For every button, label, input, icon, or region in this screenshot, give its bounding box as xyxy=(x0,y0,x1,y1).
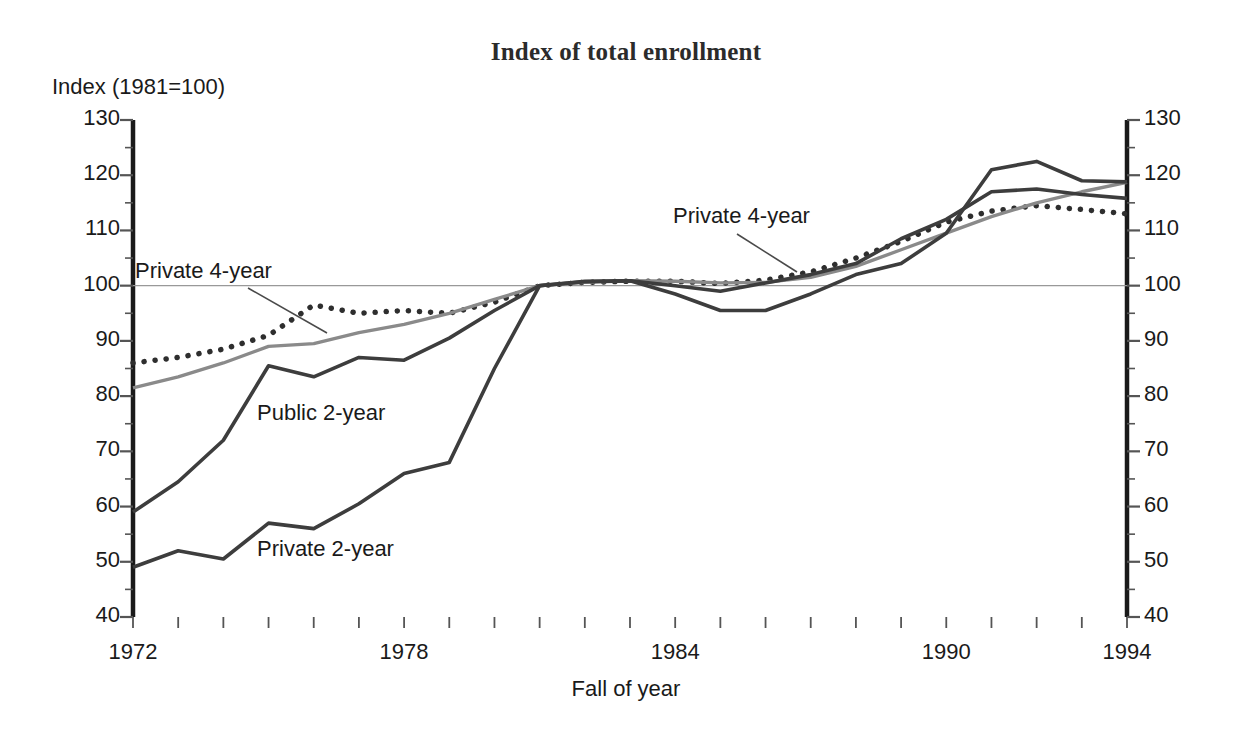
y-axis-label-left-90: 90 xyxy=(50,326,120,352)
y-axis-label-right-120: 120 xyxy=(1144,160,1214,186)
series-group xyxy=(133,161,1127,567)
y-axis-label-right-60: 60 xyxy=(1144,492,1214,518)
label-private-2year: Private 2-year xyxy=(257,536,394,562)
chart-page: Index of total enrollment Index (1981=10… xyxy=(0,0,1252,734)
y-axis-label-left-60: 60 xyxy=(50,492,120,518)
y-axis-label-left-50: 50 xyxy=(50,547,120,573)
y-axis-label-right-100: 100 xyxy=(1144,271,1214,297)
x-axis-label-1972: 1972 xyxy=(88,639,178,665)
y-axis-label-left-80: 80 xyxy=(50,381,120,407)
x-axis-caption: Fall of year xyxy=(0,676,1252,702)
y-axis-label-left-110: 110 xyxy=(50,215,120,241)
label-public-2year: Public 2-year xyxy=(257,400,385,426)
y-axis-label-left-40: 40 xyxy=(50,602,120,628)
x-axis-label-1994: 1994 xyxy=(1082,639,1172,665)
y-axis-label-right-90: 90 xyxy=(1144,326,1214,352)
x-axis-label-1990: 1990 xyxy=(901,639,991,665)
y-axis-label-right-80: 80 xyxy=(1144,381,1214,407)
y-axis-label-right-110: 110 xyxy=(1144,215,1214,241)
series-line-private-4-year xyxy=(133,206,1127,363)
y-axis-label-right-40: 40 xyxy=(1144,602,1214,628)
x-axis-label-1984: 1984 xyxy=(630,639,720,665)
chart-plot-area xyxy=(0,0,1252,734)
x-axis-label-1978: 1978 xyxy=(359,639,449,665)
y-axis-label-left-100: 100 xyxy=(50,271,120,297)
label-private-4year-right-leader-line xyxy=(737,234,797,272)
y-axis-label-right-50: 50 xyxy=(1144,547,1214,573)
y-axis-label-left-130: 130 xyxy=(50,105,120,131)
label-private-4year-left: Private 4-year xyxy=(135,258,272,284)
y-axis-label-right-70: 70 xyxy=(1144,436,1214,462)
label-private-4year-right: Private 4-year xyxy=(673,203,810,229)
series-line-public-2-year xyxy=(133,189,1127,512)
y-axis-label-left-120: 120 xyxy=(50,160,120,186)
y-axis-label-left-70: 70 xyxy=(50,436,120,462)
label-private-4year-left-leader-line xyxy=(248,288,327,333)
y-axis-label-right-130: 130 xyxy=(1144,105,1214,131)
